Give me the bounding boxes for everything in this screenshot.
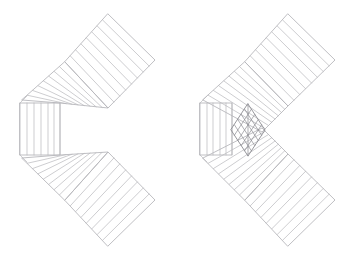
strip-stripe (283, 194, 330, 240)
strip-outline (65, 14, 155, 108)
strip-stripe (214, 135, 269, 169)
strip-stripe (250, 56, 294, 100)
strip-stripe (267, 177, 312, 223)
strip-stripe (70, 56, 114, 102)
strip-stripe (272, 32, 318, 77)
strip-stripe (92, 182, 138, 229)
strip-stripe (261, 44, 306, 89)
strip-stripe (103, 194, 150, 240)
strip-stripe (87, 38, 132, 84)
strip-stripe (97, 188, 143, 235)
corner-facet (20, 155, 27, 162)
strip-stripe (208, 131, 265, 163)
strip-outline (65, 152, 155, 246)
strip-stripe (283, 20, 330, 66)
left-mesh-panel (20, 14, 155, 246)
strip-stripe (60, 67, 102, 108)
corner-column (200, 103, 232, 155)
overlap-line (245, 125, 262, 151)
figure-canvas (0, 0, 355, 261)
strip-stripe (49, 76, 90, 106)
strip-stripe (277, 26, 323, 72)
strip-stripe (70, 158, 114, 206)
strip-stripe (261, 171, 306, 217)
strip-stripe (81, 170, 126, 217)
strip-stripe (76, 164, 120, 212)
strip-stripe (250, 160, 294, 206)
strip-stripe (81, 44, 126, 90)
strip-stripe (97, 26, 143, 72)
strip-stripe (60, 152, 102, 194)
strip-stripe (92, 32, 138, 78)
overlap-line (241, 120, 258, 146)
strip-stripe (38, 154, 78, 174)
overlap-line (241, 114, 258, 140)
strip-stripe (272, 183, 318, 229)
strip-stripe (103, 20, 150, 66)
overlap-line (234, 109, 251, 135)
overlap-line (238, 114, 255, 140)
strip-stripe (87, 176, 132, 223)
strip-stripe (277, 189, 323, 235)
corner-facet (20, 96, 27, 103)
strip-stripe (267, 38, 312, 83)
mesh-diagram (0, 0, 355, 261)
strip-stripe (76, 50, 120, 96)
right-mesh-panel (200, 14, 335, 246)
